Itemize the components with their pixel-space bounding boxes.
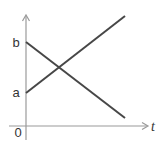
label-b: b bbox=[12, 35, 19, 50]
diagram-canvas: b a 0 t bbox=[0, 0, 162, 148]
label-a: a bbox=[12, 85, 20, 100]
label-t: t bbox=[151, 119, 156, 134]
label-origin: 0 bbox=[14, 125, 21, 140]
